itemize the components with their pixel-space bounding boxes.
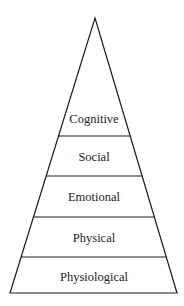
level-label-cognitive: Cognitive — [69, 112, 119, 126]
pyramid-diagram: Cognitive Social Emotional Physical Phys… — [0, 0, 184, 306]
level-label-physical: Physical — [73, 231, 116, 245]
level-label-physiological: Physiological — [60, 270, 129, 284]
level-label-emotional: Emotional — [68, 190, 121, 204]
level-label-social: Social — [78, 150, 110, 164]
